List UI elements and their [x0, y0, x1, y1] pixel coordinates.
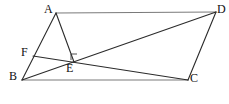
segment-AD [56, 12, 216, 13]
vertex-label-A: A [44, 3, 53, 15]
vertex-label-E: E [66, 62, 73, 74]
segments-layer [22, 12, 216, 80]
vertex-label-C: C [190, 72, 198, 84]
vertex-label-F: F [21, 46, 28, 58]
figure-canvas [0, 0, 229, 104]
geometry-figure: ADBCEF [0, 0, 229, 104]
vertex-label-B: B [9, 70, 17, 82]
segment-DC [188, 12, 216, 80]
vertex-label-D: D [217, 3, 226, 15]
